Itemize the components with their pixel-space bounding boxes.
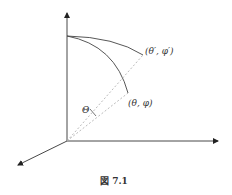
arc-to-point — [67, 36, 128, 93]
figure-caption: 図 7.1 — [100, 176, 128, 186]
x-axis — [18, 141, 67, 165]
radius-to-point — [67, 93, 128, 141]
angle-marker — [90, 109, 96, 116]
spherical-angle-diagram: (θ′, φ′) (θ, φ) Θ 図 7.1 — [0, 0, 232, 195]
label-point-prime: (θ′, φ′) — [145, 46, 174, 56]
label-angle: Θ — [82, 105, 90, 115]
label-point: (θ, φ) — [128, 98, 153, 108]
